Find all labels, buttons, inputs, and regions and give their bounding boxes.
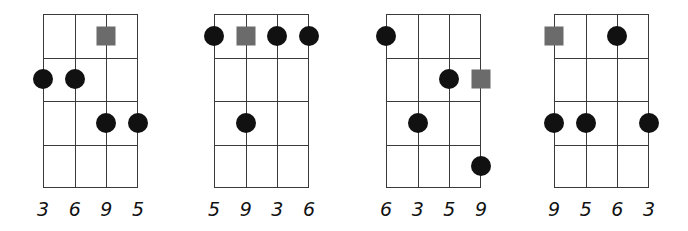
root-note-square-icon xyxy=(236,26,255,45)
fret-line xyxy=(555,145,648,146)
note-dot-icon xyxy=(607,26,627,46)
interval-label: 5 xyxy=(574,198,598,220)
interval-label: 6 xyxy=(297,198,321,220)
note-dot-icon xyxy=(639,113,659,133)
fretboard-grid xyxy=(214,14,309,188)
note-dot-icon xyxy=(299,26,319,46)
interval-label: 6 xyxy=(605,198,629,220)
note-dot-icon xyxy=(376,26,396,46)
note-dot-icon xyxy=(267,26,287,46)
note-dot-icon xyxy=(576,113,596,133)
fret-line xyxy=(387,58,480,59)
interval-label: 5 xyxy=(437,198,461,220)
interval-label: 3 xyxy=(265,198,289,220)
fretboard-grid xyxy=(554,14,649,188)
fret-line xyxy=(215,145,308,146)
note-dot-icon xyxy=(204,26,224,46)
root-note-square-icon xyxy=(472,70,491,89)
interval-label: 9 xyxy=(542,198,566,220)
interval-label: 9 xyxy=(469,198,493,220)
note-dot-icon xyxy=(408,113,428,133)
interval-label: 3 xyxy=(637,198,661,220)
interval-label: 6 xyxy=(374,198,398,220)
fret-line xyxy=(215,101,308,102)
note-dot-icon xyxy=(236,113,256,133)
fretboard-grid xyxy=(386,14,481,188)
note-dot-icon xyxy=(544,113,564,133)
note-dot-icon xyxy=(471,156,491,176)
fret-line xyxy=(387,145,480,146)
fret-line xyxy=(555,101,648,102)
interval-label: 3 xyxy=(406,198,430,220)
interval-label: 9 xyxy=(234,198,258,220)
fret-line xyxy=(555,58,648,59)
fret-line xyxy=(387,101,480,102)
chord-diagram-4: 9563 xyxy=(0,0,172,231)
note-dot-icon xyxy=(439,69,459,89)
root-note-square-icon xyxy=(545,26,564,45)
fret-line xyxy=(215,58,308,59)
interval-label: 5 xyxy=(202,198,226,220)
